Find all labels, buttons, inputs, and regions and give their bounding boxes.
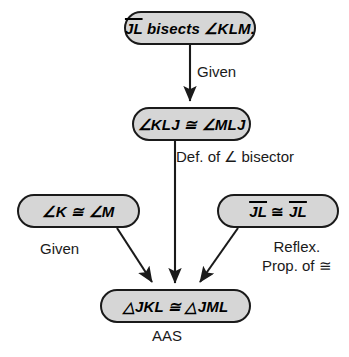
edge-label-def-of-angle-bisector: Def. of ∠ bisector xyxy=(176,148,294,167)
edge-right-to-bottom xyxy=(200,228,238,282)
segment-jl-overline-right: JL xyxy=(289,203,307,220)
conclusion-reason-aas: AAS xyxy=(152,327,182,346)
node-segment-reflexive[interactable]: JL ≅ JL xyxy=(217,194,339,228)
segment-jl-overline: JL xyxy=(125,20,143,37)
edge-label-reflexive-property: Reflex. Prop. of ≅ xyxy=(262,238,332,276)
node-triangle-congruence-text: △JKL ≅ △JML xyxy=(121,299,231,314)
edge-label-reflexive-line2: Prop. of ≅ xyxy=(262,257,332,276)
proof-flowchart-canvas: JL bisects ∠KLM. ∠KLJ ≅ ∠MLJ ∠K ≅ ∠M JL … xyxy=(0,0,349,357)
node-angle-congruence[interactable]: ∠KLJ ≅ ∠MLJ xyxy=(132,107,251,141)
node-angle-k-congruent-angle-m-text: ∠K ≅ ∠M xyxy=(40,204,116,219)
edge-label-given-top: Given xyxy=(197,63,236,82)
node-segment-reflexive-text: JL ≅ JL xyxy=(247,204,309,219)
edge-left-to-bottom xyxy=(117,228,152,282)
node-angle-k-congruent-angle-m[interactable]: ∠K ≅ ∠M xyxy=(17,194,140,228)
edge-label-given-left: Given xyxy=(40,240,79,259)
bisects-verb: bisects xyxy=(143,20,205,37)
node-angle-congruence-text: ∠KLJ ≅ ∠MLJ xyxy=(136,117,248,132)
node-given-statement[interactable]: JL bisects ∠KLM. xyxy=(124,11,256,45)
node-given-statement-text: JL bisects ∠KLM. xyxy=(123,21,257,36)
node-triangle-congruence[interactable]: △JKL ≅ △JML xyxy=(100,289,251,323)
angle-klm: ∠KLM. xyxy=(204,20,255,37)
segment-jl-overline-left: JL xyxy=(249,203,267,220)
congruence-symbol: ≅ xyxy=(267,203,289,220)
edge-label-reflexive-line1: Reflex. xyxy=(262,238,332,257)
